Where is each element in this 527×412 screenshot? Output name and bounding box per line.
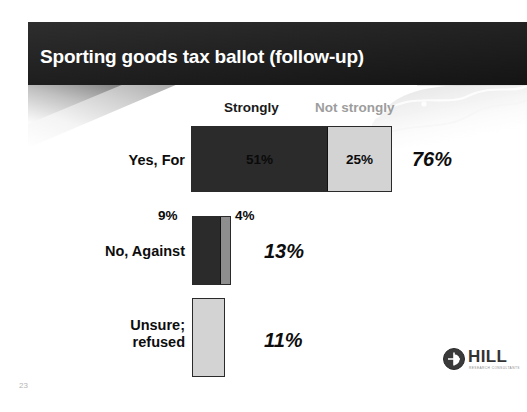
slide-canvas: Sporting goods tax ballot (follow-up) St…: [0, 0, 527, 412]
bar-segment-not-strongly-unsure-refused: [193, 299, 224, 376]
slide-number: 23: [19, 381, 28, 390]
legend-item-strongly: Strongly: [224, 100, 279, 115]
bar-row-yes-for: 51% 25%: [191, 126, 392, 192]
bar-segment-strongly-no-against: [193, 217, 220, 284]
bar-segment-value: 25%: [346, 152, 373, 167]
bar-segment-not-strongly-no-against: [220, 217, 230, 284]
bar-row-total-unsure-refused: 11%: [264, 329, 303, 352]
bar-row-total-yes-for: 76%: [412, 148, 452, 171]
bar-row-no-against: [192, 216, 231, 285]
bar-segment-value: 51%: [246, 152, 273, 167]
background-swoosh-shape-secondary: [28, 84, 124, 124]
bar-segment-value-not-strongly-no-against: 4%: [235, 208, 255, 223]
hill-logo-mark-icon: [443, 348, 465, 370]
hill-logo: HILL RESEARCH CONSULTANTS: [443, 347, 521, 377]
bar-segment-not-strongly-yes-for: 25%: [327, 127, 391, 191]
background-swoosh-shape: [28, 84, 178, 148]
bar-segment-strongly-yes-for: 51%: [192, 127, 327, 191]
bar-segment-value-strongly-no-against: 9%: [158, 208, 178, 223]
bar-row-total-no-against: 13%: [264, 240, 304, 263]
legend: Strongly Not strongly: [191, 100, 461, 118]
title-banner: Sporting goods tax ballot (follow-up): [28, 22, 527, 85]
bar-row-label-unsure-refused: Unsure; refused: [65, 317, 185, 350]
hill-logo-tagline: RESEARCH CONSULTANTS: [469, 366, 520, 370]
bar-row-unsure-refused: [192, 298, 225, 377]
hill-logo-wordmark: HILL: [468, 348, 507, 366]
legend-item-not-strongly: Not strongly: [315, 100, 395, 115]
bar-row-label-no-against: No, Against: [45, 243, 185, 260]
page-title: Sporting goods tax ballot (follow-up): [40, 46, 364, 68]
bar-row-label-yes-for: Yes, For: [55, 152, 185, 169]
